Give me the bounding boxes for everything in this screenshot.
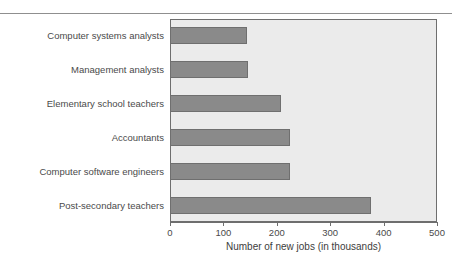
x-axis-title: Number of new jobs (in thousands) xyxy=(170,241,437,252)
x-axis-tick xyxy=(437,222,438,226)
bar xyxy=(170,197,371,214)
x-axis-tick-label: 300 xyxy=(322,227,338,238)
x-axis-tick-label: 400 xyxy=(376,227,392,238)
x-axis-tick-label: 500 xyxy=(429,227,445,238)
category-label: Accountants xyxy=(0,129,164,146)
category-label: Computer systems analysts xyxy=(0,27,164,44)
bar xyxy=(170,129,290,146)
category-label: Post-secondary teachers xyxy=(0,197,164,214)
x-axis-tick xyxy=(170,222,171,226)
bar-chart-figure: Computer systems analystsManagement anal… xyxy=(0,0,462,270)
bar xyxy=(170,163,290,180)
x-axis-tick-label: 200 xyxy=(269,227,285,238)
bars-layer xyxy=(170,19,437,222)
x-axis-tick xyxy=(223,222,224,226)
x-axis-line xyxy=(170,222,437,223)
top-divider-rule xyxy=(0,13,452,14)
category-label: Management analysts xyxy=(0,61,164,78)
category-axis-labels: Computer systems analystsManagement anal… xyxy=(0,19,164,222)
category-label: Computer software engineers xyxy=(0,163,164,180)
category-label: Elementary school teachers xyxy=(0,95,164,112)
x-axis-tick xyxy=(384,222,385,226)
bar xyxy=(170,95,281,112)
x-axis-tick-label: 100 xyxy=(215,227,231,238)
x-axis-tick xyxy=(277,222,278,226)
bar xyxy=(170,61,248,78)
bar xyxy=(170,27,247,44)
x-axis-tick xyxy=(330,222,331,226)
x-axis-tick-label: 0 xyxy=(167,227,172,238)
